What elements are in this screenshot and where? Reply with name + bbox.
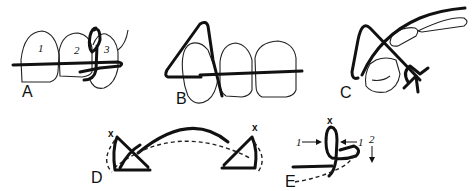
arrow-label-1-left: 1 [296, 136, 302, 148]
mark-x-left: x [108, 128, 114, 139]
panel-c: C [340, 8, 467, 101]
suture-diagram: 1 2 3 A B C x x D [0, 0, 476, 191]
loop-left-d [114, 137, 150, 170]
suture-tail [118, 30, 128, 50]
panel-e: x 1 1 2 E [285, 115, 375, 190]
panel-label-c: C [340, 84, 352, 101]
tooth-b3-outline [255, 41, 296, 97]
tooth-c1-outline [418, 18, 467, 32]
suture-arc-d [138, 128, 228, 153]
tooth-number-2: 2 [74, 44, 80, 56]
tooth-number-1: 1 [38, 42, 44, 54]
mark-x-e: x [327, 115, 333, 126]
suture-arc-c [362, 8, 465, 75]
tooth-c3-inner [372, 76, 390, 81]
suture-knot-c [404, 66, 428, 92]
arrow-label-2: 2 [369, 133, 375, 145]
arrow-label-1-right: 1 [358, 136, 364, 148]
suture-triangle [166, 22, 222, 96]
arrowhead-left-e [316, 139, 322, 145]
mark-x-right: x [252, 122, 258, 133]
tooth-b2-outline [220, 43, 252, 97]
suture-loop-e [326, 127, 359, 176]
arrowhead-right-e [340, 139, 346, 145]
tooth-c2-outline [390, 28, 418, 47]
arrowhead-down-e [369, 157, 375, 163]
tooth-1-outline [21, 31, 59, 82]
panel-b: B [166, 22, 302, 107]
tooth-c3-outline [366, 58, 401, 92]
panel-a: 1 2 3 A [13, 28, 128, 100]
panel-label-b: B [176, 90, 187, 107]
suture-horizontal-e [293, 166, 332, 167]
panel-label-a: A [22, 83, 33, 100]
panel-label-d: D [91, 169, 103, 186]
tooth-number-3: 3 [103, 43, 110, 55]
panel-d: x x D [91, 122, 262, 186]
panel-label-e: E [285, 173, 296, 190]
suture-horizontal [13, 62, 122, 72]
